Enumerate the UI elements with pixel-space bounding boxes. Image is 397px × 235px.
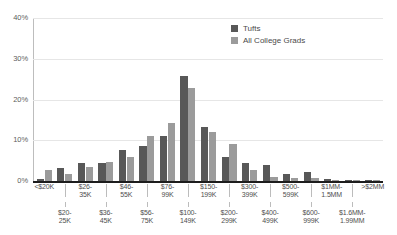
bar-group [321,18,342,181]
bar-tufts [180,76,187,181]
bar-all-college-grads [147,136,154,181]
bar-all-college-grads [229,144,236,181]
legend-item-all-college-grads: All College Grads [231,36,305,45]
bar-group [342,18,363,181]
x-tick-label--2mm: >$2MM [353,183,393,191]
x-tick-label--500-599k: $500-599K [271,183,311,199]
x-axis-tick [270,202,271,207]
y-tick-label-10: 10% [13,136,28,144]
legend-swatch-icon-tufts [231,25,238,32]
plot-area [33,18,383,181]
bar-tufts [222,157,229,181]
bar-group [55,18,76,181]
bar-group [362,18,383,181]
x-tick-label--1mm-1-5mm: $1MM-1.5MM [312,183,352,199]
x-tick-label--76-99k: $76-99K [147,183,187,199]
x-axis-tick [352,202,353,207]
bar-group [198,18,219,181]
bar-tufts [242,163,249,181]
x-axis-tick [229,202,230,207]
bar-group [34,18,55,181]
bar-tufts [160,136,167,181]
bar-all-college-grads [45,170,52,181]
bar-all-college-grads [209,132,216,181]
y-tick-label-40: 40% [13,14,28,22]
x-tick-label--300-399k: $300-399K [230,183,270,199]
bar-tufts [98,163,105,181]
bar-all-college-grads [86,167,93,181]
bar-all-college-grads [250,170,257,181]
x-tick-label--20k: <$20K [24,183,64,191]
bar-group [157,18,178,181]
bar-group [96,18,117,181]
x-tick-label--150-199k: $150-199K [189,183,229,199]
x-tick-label--26-35k: $26-35K [65,183,105,199]
x-tick-label--1-6mm-1-99mm: $1.6MM-1.99MM [332,209,372,225]
bar-group [137,18,158,181]
x-axis-tick [311,202,312,207]
bar-group [116,18,137,181]
x-tick-label--56-75k: $56-75K [127,209,167,225]
x-axis-tick [188,202,189,207]
bar-tufts [78,163,85,181]
legend-label-all-college-grads: All College Grads [243,36,305,45]
x-axis-labels: <$20K$20-25K$26-35K$36-45K$46-55K$56-75K… [33,183,385,235]
x-tick-label--600-999k: $600-999K [291,209,331,225]
bar-tufts [263,165,270,181]
x-axis-tick [106,202,107,207]
y-tick-label-30: 30% [13,55,28,63]
x-axis-tick [65,202,66,207]
bar-all-college-grads [168,123,175,181]
bar-tufts [119,150,126,181]
legend-swatch-icon-all-college-grads [231,37,238,44]
x-tick-label--100-149k: $100-149K [168,209,208,225]
x-tick-label--200-299k: $200-299K [209,209,249,225]
bar-series-container [34,18,383,181]
bar-tufts [57,168,64,181]
y-tick-label-20: 20% [13,96,28,104]
bar-tufts [283,174,290,181]
bar-all-college-grads [65,174,72,181]
x-tick-label--46-55k: $46-55K [106,183,146,199]
bar-all-college-grads [127,157,134,181]
chart-legend: Tufts All College Grads [231,24,305,45]
x-tick-label--20-25k: $20-25K [45,209,85,225]
bar-tufts [139,146,146,181]
bar-all-college-grads [188,88,195,181]
x-tick-label--36-45k: $36-45K [86,209,126,225]
x-tick-label--400-499k: $400-499K [250,209,290,225]
x-axis-tick [147,202,148,207]
legend-label-tufts: Tufts [243,24,260,33]
y-axis-labels: 0%10%20%30%40% [0,0,31,235]
bar-group [178,18,199,181]
bar-group [75,18,96,181]
income-distribution-chart: 0%10%20%30%40% Tufts All College Grads <… [0,0,397,235]
bar-tufts [304,172,311,181]
bar-tufts [201,127,208,181]
legend-item-tufts: Tufts [231,24,305,33]
bar-all-college-grads [106,162,113,181]
